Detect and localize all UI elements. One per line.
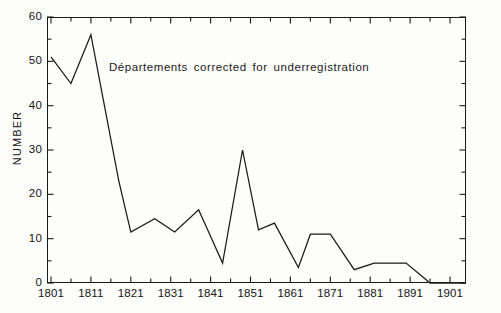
chart-annotation: Départements corrected for underregistra… [109, 61, 369, 73]
x-axis-tick-label: 1841 [198, 287, 224, 299]
x-axis-tick-label: 1811 [78, 287, 103, 299]
x-axis-tick-label: 1881 [357, 287, 383, 299]
y-axis-title: NUMBER [11, 83, 23, 193]
x-axis-tick-label: 1871 [317, 287, 343, 299]
x-axis-tick-label: 1851 [238, 287, 264, 299]
x-axis-tick-label: 1891 [397, 287, 423, 299]
x-axis-tick-label: 1861 [277, 287, 303, 299]
x-axis-tick-label: 1801 [38, 287, 64, 299]
x-axis-tick-label: 1821 [118, 287, 144, 299]
x-axis-tick-label: 1831 [158, 287, 184, 299]
x-axis-tick-labels: 1801181118211831184118511861187118811891… [0, 0, 501, 313]
x-axis-tick-label: 1901 [437, 287, 463, 299]
chart-figure: 0102030405060 18011811182118311841185118… [0, 0, 501, 313]
